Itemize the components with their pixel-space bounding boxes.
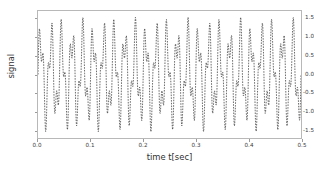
- y-tick-mark: [35, 18, 38, 19]
- x-tick-label: 0.3: [192, 143, 201, 149]
- x-tick-label: 0.1: [86, 143, 95, 149]
- y-tick-label: 1.5: [282, 15, 314, 21]
- y-axis-label: signal: [7, 36, 15, 96]
- x-tick-label: 0.0: [33, 143, 42, 149]
- y-tick-label: -1.5: [282, 128, 314, 134]
- y-tick-mark: [35, 93, 38, 94]
- y-tick-label: -1.0: [282, 109, 314, 115]
- chart-figure: 1.51.00.50.0-0.5-1.0-1.5 0.00.10.20.30.4…: [0, 0, 314, 172]
- y-tick-mark: [35, 56, 38, 57]
- x-tick-mark: [143, 139, 144, 142]
- x-tick-mark: [302, 139, 303, 142]
- x-tick-label: 0.2: [139, 143, 148, 149]
- x-tick-mark: [37, 139, 38, 142]
- y-tick-label: -0.5: [282, 90, 314, 96]
- y-tick-mark: [35, 37, 38, 38]
- signal-line: [38, 11, 301, 138]
- plot-area: [37, 10, 302, 139]
- x-tick-mark: [90, 139, 91, 142]
- y-tick-label: 0.0: [282, 72, 314, 78]
- y-tick-mark: [35, 131, 38, 132]
- x-tick-mark: [249, 139, 250, 142]
- y-tick-label: 0.5: [282, 53, 314, 59]
- y-tick-label: 1.0: [282, 34, 314, 40]
- y-tick-mark: [35, 112, 38, 113]
- x-tick-label: 0.5: [298, 143, 307, 149]
- signal-path: [38, 17, 301, 131]
- y-tick-mark: [35, 75, 38, 76]
- x-axis-label: time t[sec]: [37, 153, 302, 161]
- x-tick-mark: [196, 139, 197, 142]
- x-tick-label: 0.4: [245, 143, 254, 149]
